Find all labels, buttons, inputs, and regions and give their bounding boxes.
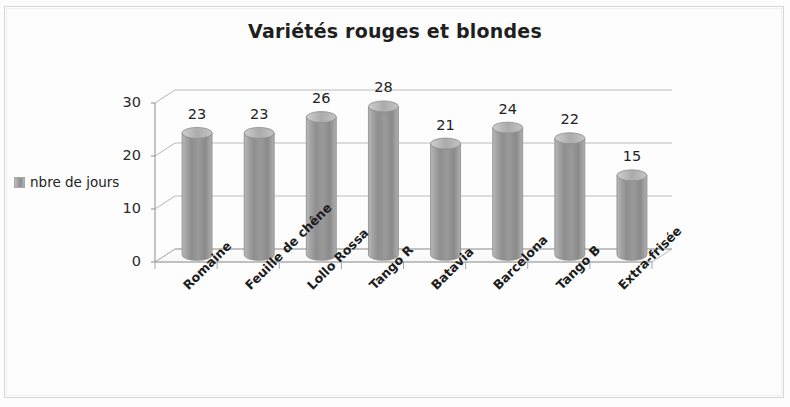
bar-value-label: 26	[301, 90, 341, 106]
bar-value-label: 28	[363, 79, 403, 95]
y-axis-tick-label: 0	[107, 253, 141, 269]
bar-top-cap	[431, 138, 461, 149]
bar-body	[493, 128, 523, 261]
bar-top-cap	[493, 122, 523, 133]
bar-body	[306, 117, 336, 260]
bar-top-cap	[244, 127, 274, 138]
bar-value-label: 15	[612, 148, 652, 164]
bar-body	[431, 144, 461, 261]
bar-value-label: 24	[488, 101, 528, 117]
gridline-riser	[155, 143, 175, 156]
bar-value-label: 21	[426, 117, 466, 133]
bar-cylinder	[182, 127, 212, 260]
bar-cylinder	[493, 122, 523, 260]
bar-cylinder	[617, 170, 647, 261]
bar-top-cap	[617, 170, 647, 181]
bar-value-label: 23	[239, 106, 279, 122]
bar-top-cap	[368, 101, 398, 112]
bar-body	[617, 175, 647, 260]
bar-cylinder	[244, 127, 274, 260]
bar-body	[244, 133, 274, 260]
gridline-riser	[155, 90, 175, 103]
bar-top-cap	[306, 112, 336, 123]
bar-value-label: 22	[550, 111, 590, 127]
bar-body	[368, 106, 398, 260]
y-axis-tick-label: 10	[107, 200, 141, 216]
plot-area: 0102030 2323262821242215 RomaineFeuille …	[0, 0, 790, 407]
bar-cylinder	[431, 138, 461, 260]
bar-top-cap	[182, 127, 212, 138]
gridline-riser	[155, 196, 175, 209]
bar-top-cap	[555, 133, 585, 144]
chart-figure: Variétés rouges et blondes nbre de jours	[0, 0, 790, 407]
bar-cylinder	[368, 101, 398, 260]
bar-body	[182, 133, 212, 260]
y-axis-tick-label: 30	[107, 94, 141, 110]
bar-body	[555, 138, 585, 260]
y-axis-tick-label: 20	[107, 147, 141, 163]
bar-value-label: 23	[177, 106, 217, 122]
bar-cylinder	[555, 133, 585, 261]
bar-cylinder	[306, 112, 336, 261]
chart-3d-scene	[151, 90, 672, 269]
